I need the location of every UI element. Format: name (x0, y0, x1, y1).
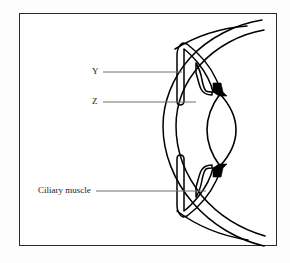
suspensory-attachment-lower (213, 164, 227, 177)
label-y: Y (92, 67, 99, 76)
lens (207, 94, 236, 166)
label-z: Z (92, 97, 98, 106)
suspensory-attachment-upper (213, 83, 227, 96)
figure-canvas: Y Z Ciliary muscle (0, 0, 290, 263)
eye-diagram (0, 0, 290, 263)
sclera-inner-curve (176, 30, 265, 236)
label-ciliary-muscle: Ciliary muscle (38, 186, 91, 195)
cornea-outer-curve (175, 26, 247, 49)
